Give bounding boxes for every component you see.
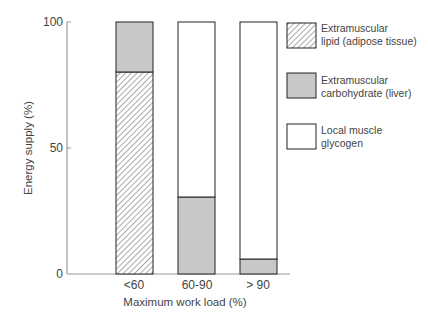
legend-carb-line2: carbohydrate (liver)	[321, 87, 411, 99]
bar-gt90-glycogen	[240, 22, 277, 259]
bar-60-90-glycogen	[178, 22, 215, 197]
legend-lipid-line1: Extramuscular	[321, 22, 389, 34]
x-tick-lt60: <60	[124, 278, 145, 292]
bar-lt60-lipid	[116, 72, 153, 274]
y-tick-0: 0	[56, 267, 63, 281]
legend-glycogen-line1: Local muscle	[321, 124, 382, 136]
y-axis: 100 50 0 Energy supply (%)	[22, 15, 71, 281]
legend-swatch-carb	[287, 73, 316, 98]
x-axis-label: Maximum work load (%)	[123, 296, 246, 308]
bar-gt90	[240, 22, 277, 274]
x-tick-gt90: > 90	[246, 278, 270, 292]
legend: Extramuscular lipid (adipose tissue) Ext…	[287, 22, 417, 149]
bar-gt90-carb	[240, 259, 277, 274]
legend-swatch-lipid	[287, 23, 316, 48]
legend-glycogen-line2: glycogen	[321, 137, 363, 149]
y-axis-label: Energy supply (%)	[22, 101, 34, 195]
legend-swatch-glycogen	[287, 124, 316, 149]
y-tick-50: 50	[50, 141, 64, 155]
bar-60-90	[178, 22, 215, 274]
y-tick-100: 100	[43, 15, 63, 29]
energy-supply-chart: 100 50 0 Energy supply (%) <60 60-90 > 9…	[0, 0, 428, 312]
bar-60-90-carb	[178, 197, 215, 274]
legend-carb-line1: Extramuscular	[321, 74, 389, 86]
x-tick-60-90: 60-90	[182, 278, 213, 292]
bar-lt60	[116, 22, 153, 274]
bar-lt60-carb	[116, 22, 153, 72]
legend-lipid-line2: lipid (adipose tissue)	[321, 35, 417, 47]
